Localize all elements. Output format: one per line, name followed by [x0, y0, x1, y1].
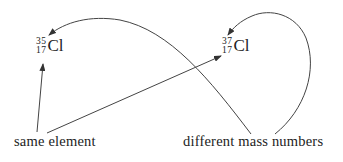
- isotope-diagram: 35 17 Cl 37 17 Cl same element different…: [0, 0, 343, 162]
- isotope-numbers: 35 17: [36, 37, 47, 54]
- atomic-number: 17: [222, 46, 233, 55]
- label-same-element: same element: [14, 133, 96, 150]
- element-symbol: Cl: [48, 37, 64, 54]
- arrow-diff-to-cl37: [228, 13, 310, 134]
- atomic-number: 17: [36, 46, 47, 55]
- arrow-diff-to-cl35: [49, 18, 251, 134]
- isotope-cl37: 37 17 Cl: [222, 37, 250, 54]
- isotope-numbers: 37 17: [222, 37, 233, 54]
- arrow-same-to-cl35: [37, 64, 43, 132]
- label-different-mass-numbers: different mass numbers: [183, 133, 323, 150]
- element-symbol: Cl: [234, 37, 250, 54]
- isotope-cl35: 35 17 Cl: [36, 37, 64, 54]
- arrow-same-to-cl37: [47, 56, 221, 133]
